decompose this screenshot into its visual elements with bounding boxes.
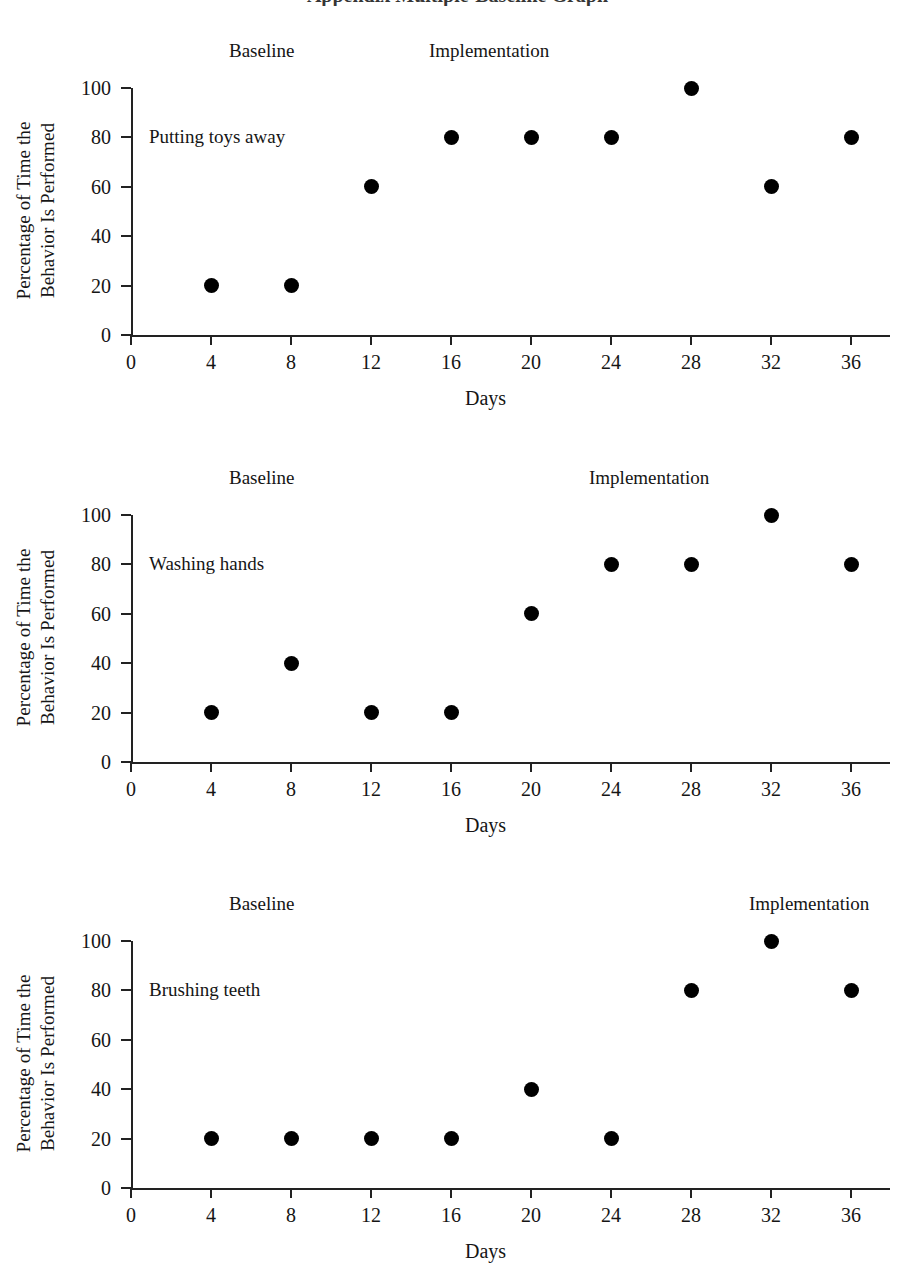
- x-axis-title: Days: [386, 1240, 586, 1263]
- x-axis-tick: [530, 1188, 532, 1198]
- x-axis-tick-label: 28: [669, 779, 713, 799]
- data-point: [764, 179, 779, 194]
- y-axis-line: [131, 88, 133, 336]
- x-axis-line: [131, 762, 890, 764]
- y-axis-title-line1: Percentage of Time the: [12, 549, 36, 727]
- x-axis-tick-label: 36: [829, 1205, 873, 1225]
- data-point: [444, 130, 459, 145]
- x-axis-tick-label: 16: [429, 779, 473, 799]
- x-axis-tick-label: 0: [109, 779, 153, 799]
- x-axis-tick: [770, 762, 772, 772]
- y-axis-tick: [121, 1088, 131, 1090]
- x-axis-tick: [610, 1188, 612, 1198]
- series-label: Brushing teeth: [149, 979, 260, 1001]
- data-point: [364, 179, 379, 194]
- x-axis-tick: [210, 335, 212, 345]
- data-point: [684, 557, 699, 572]
- y-axis-tick: [121, 87, 131, 89]
- data-point: [604, 1131, 619, 1146]
- x-axis-tick-label: 8: [269, 352, 313, 372]
- y-axis-tick-label: 60: [65, 177, 111, 197]
- phase-label: Implementation: [429, 40, 549, 62]
- x-axis-tick-label: 8: [269, 1205, 313, 1225]
- x-axis-tick-label: 28: [669, 352, 713, 372]
- data-point: [764, 934, 779, 949]
- y-axis-tick: [121, 285, 131, 287]
- x-axis-title: Days: [386, 387, 586, 410]
- y-axis-tick: [121, 989, 131, 991]
- data-point: [204, 705, 219, 720]
- data-point: [284, 656, 299, 671]
- data-point: [444, 1131, 459, 1146]
- data-point: [284, 278, 299, 293]
- x-axis-tick: [770, 1188, 772, 1198]
- x-axis-title: Days: [386, 814, 586, 837]
- y-axis-tick-label: 80: [65, 554, 111, 574]
- y-axis-tick-label: 0: [65, 752, 111, 772]
- data-point: [764, 508, 779, 523]
- x-axis-tick-label: 12: [349, 1205, 393, 1225]
- x-axis-tick-label: 4: [189, 1205, 233, 1225]
- x-axis-tick: [130, 335, 132, 345]
- x-axis-tick-label: 0: [109, 352, 153, 372]
- phase-label: Baseline: [229, 893, 294, 915]
- y-axis-tick-label: 20: [65, 703, 111, 723]
- data-point: [284, 1131, 299, 1146]
- x-axis-tick: [370, 1188, 372, 1198]
- y-axis-tick-label: 60: [65, 1030, 111, 1050]
- y-axis-title-line1: Percentage of Time the: [12, 975, 36, 1153]
- page-title-clip: Appendix Multiple-Baseline Graph: [0, 0, 915, 6]
- y-axis-title: Percentage of Time theBehavior Is Perfor…: [10, 505, 62, 770]
- x-axis-tick: [450, 762, 452, 772]
- y-axis-tick-label: 100: [65, 931, 111, 951]
- x-axis-tick-label: 24: [589, 779, 633, 799]
- x-axis-tick: [130, 762, 132, 772]
- y-axis-title-line2: Behavior Is Performed: [36, 976, 60, 1151]
- x-axis-tick: [610, 335, 612, 345]
- y-axis-tick-label: 20: [65, 276, 111, 296]
- x-axis-tick: [610, 762, 612, 772]
- x-axis-tick: [210, 1188, 212, 1198]
- data-point: [524, 1082, 539, 1097]
- x-axis-tick-label: 36: [829, 779, 873, 799]
- y-axis-tick-label: 100: [65, 505, 111, 525]
- x-axis-tick-label: 16: [429, 352, 473, 372]
- x-axis-tick: [290, 1188, 292, 1198]
- data-point: [684, 81, 699, 96]
- x-axis-tick-label: 20: [509, 1205, 553, 1225]
- data-point: [844, 557, 859, 572]
- data-point: [524, 606, 539, 621]
- x-axis-tick: [850, 1188, 852, 1198]
- y-axis-tick: [121, 136, 131, 138]
- x-axis-tick-label: 8: [269, 779, 313, 799]
- x-axis-tick-label: 4: [189, 352, 233, 372]
- y-axis-tick: [121, 563, 131, 565]
- y-axis-tick: [121, 235, 131, 237]
- y-axis-tick-label: 40: [65, 1079, 111, 1099]
- x-axis-tick-label: 32: [749, 779, 793, 799]
- series-label: Putting toys away: [149, 126, 285, 148]
- data-point: [204, 1131, 219, 1146]
- x-axis-tick: [370, 762, 372, 772]
- x-axis-tick-label: 20: [509, 352, 553, 372]
- y-axis-tick-label: 60: [65, 604, 111, 624]
- y-axis-tick: [121, 186, 131, 188]
- x-axis-tick-label: 0: [109, 1205, 153, 1225]
- y-axis-tick-label: 80: [65, 127, 111, 147]
- x-axis-tick-label: 4: [189, 779, 233, 799]
- x-axis-tick-label: 20: [509, 779, 553, 799]
- data-point: [604, 130, 619, 145]
- y-axis-tick-label: 40: [65, 653, 111, 673]
- x-axis-tick: [530, 335, 532, 345]
- x-axis-line: [131, 1188, 890, 1190]
- x-axis-tick: [850, 762, 852, 772]
- x-axis-tick-label: 28: [669, 1205, 713, 1225]
- series-label: Washing hands: [149, 553, 264, 575]
- y-axis-line: [131, 515, 133, 763]
- data-point: [364, 1131, 379, 1146]
- y-axis-tick: [121, 613, 131, 615]
- x-axis-tick-label: 12: [349, 779, 393, 799]
- phase-label: Implementation: [749, 893, 869, 915]
- x-axis-tick: [770, 335, 772, 345]
- data-point: [844, 130, 859, 145]
